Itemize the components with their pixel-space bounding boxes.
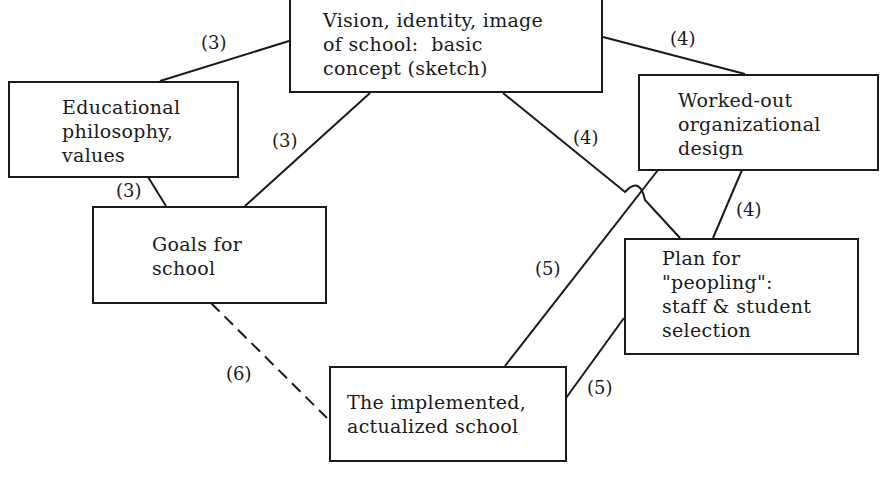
edge-vision-goals [245,93,370,206]
node-vision-label: Vision, identity, image of school: basic… [323,8,543,80]
edge-label-design-peopling: (4) [736,200,762,220]
node-design-label: Worked-out organizational design [678,88,821,160]
edge-label-vision-goals: (3) [272,131,298,151]
edge-label-peopling-implemented: (5) [587,378,613,398]
node-philosophy: Educational philosophy, values [8,81,239,178]
edge-philosophy-goals [148,177,166,206]
edge-label-vision-design: (4) [670,29,696,49]
node-goals: Goals for school [92,206,327,304]
edge-label-vision-philosophy: (3) [201,33,227,53]
node-implemented-label: The implemented, actualized school [347,390,526,438]
node-vision: Vision, identity, image of school: basic… [289,0,603,93]
node-implemented: The implemented, actualized school [329,366,567,462]
edge-label-philosophy-goals: (3) [116,181,142,201]
edge-label-design-implemented: (5) [535,259,561,279]
node-goals-label: Goals for school [152,232,242,280]
node-philosophy-label: Educational philosophy, values [62,95,180,167]
edge-label-vision-peopling: (4) [573,128,599,148]
node-peopling: Plan for "peopling": staff & student sel… [624,238,859,355]
edge-goals-implemented [211,303,327,418]
node-peopling-label: Plan for "peopling": staff & student sel… [662,246,811,342]
edge-label-goals-implemented: (6) [226,364,252,384]
node-design: Worked-out organizational design [638,74,879,171]
